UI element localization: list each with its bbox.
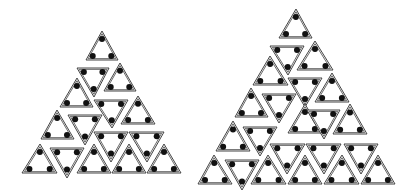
dot xyxy=(267,61,273,67)
dot xyxy=(248,93,254,99)
dot xyxy=(37,149,43,155)
dot xyxy=(365,177,371,183)
dot xyxy=(229,161,235,167)
dot xyxy=(222,177,228,183)
dot xyxy=(230,126,236,132)
dot xyxy=(329,78,335,84)
triangle-tile-down xyxy=(288,78,322,107)
dot xyxy=(331,145,337,151)
dot xyxy=(302,160,308,166)
dot xyxy=(64,132,70,138)
dot xyxy=(265,160,271,166)
dot xyxy=(302,63,308,69)
dot xyxy=(349,177,355,183)
dot xyxy=(64,167,70,173)
triangle-tile-up xyxy=(315,73,349,102)
dot xyxy=(118,133,124,139)
dot xyxy=(81,69,87,75)
triangle-tiling-diagram xyxy=(0,0,416,196)
dot xyxy=(240,144,246,150)
dot xyxy=(125,117,131,123)
dot xyxy=(220,144,226,150)
dot xyxy=(116,166,122,172)
dot xyxy=(83,100,89,106)
dot xyxy=(293,14,299,20)
dot xyxy=(257,78,263,84)
dot xyxy=(109,117,115,123)
dot xyxy=(385,177,391,183)
dot xyxy=(294,47,300,53)
dot xyxy=(255,177,261,183)
dot xyxy=(258,110,264,116)
dot xyxy=(347,109,353,115)
dot xyxy=(99,36,105,42)
dot xyxy=(54,115,60,121)
dot xyxy=(145,117,151,123)
dot xyxy=(161,149,167,155)
dot xyxy=(328,177,334,183)
dot xyxy=(154,133,160,139)
dot xyxy=(108,151,114,157)
dot xyxy=(117,68,123,74)
dot xyxy=(368,145,374,151)
triangle-tile-up xyxy=(333,104,367,134)
dot xyxy=(202,177,208,183)
dot xyxy=(312,79,318,85)
dot xyxy=(311,111,317,117)
dot xyxy=(136,166,142,172)
dot xyxy=(278,78,284,84)
dot xyxy=(99,69,105,75)
triangle-tile-up xyxy=(297,41,333,70)
triangle-tile-down xyxy=(262,94,296,123)
dot xyxy=(285,64,291,70)
triangle-tile-down xyxy=(225,160,259,190)
dot xyxy=(267,128,273,134)
dot xyxy=(292,177,298,183)
triangle-tile-up xyxy=(235,88,268,117)
dot xyxy=(72,116,78,122)
dot xyxy=(357,127,363,133)
dot xyxy=(92,116,98,122)
dot xyxy=(358,163,364,169)
dot xyxy=(47,166,53,172)
dot xyxy=(249,161,255,167)
dot xyxy=(319,95,325,101)
dot xyxy=(98,133,104,139)
dot xyxy=(339,160,345,166)
triangle-tile-up xyxy=(41,110,74,139)
triangle-tile-up xyxy=(198,155,232,184)
dot xyxy=(330,111,336,117)
dot xyxy=(26,166,32,172)
dot xyxy=(312,46,318,52)
dot xyxy=(276,112,282,118)
right-triangle-arrangement xyxy=(198,9,395,190)
dot xyxy=(286,95,292,101)
dot xyxy=(312,177,318,183)
dot xyxy=(321,163,327,169)
dot xyxy=(337,127,343,133)
dot xyxy=(284,163,290,169)
dot xyxy=(98,101,104,107)
dot xyxy=(302,96,308,102)
triangle-tile-up xyxy=(104,63,136,91)
dot xyxy=(266,95,272,101)
dot xyxy=(274,145,280,151)
dot xyxy=(151,166,157,172)
triangle-tile-down xyxy=(243,127,277,156)
dot xyxy=(310,145,316,151)
dot xyxy=(126,84,132,90)
dot xyxy=(54,149,60,155)
dot xyxy=(74,149,80,155)
dot xyxy=(302,31,308,37)
triangle-tile-down xyxy=(68,115,102,145)
dot xyxy=(295,145,301,151)
dot xyxy=(45,132,51,138)
dot xyxy=(90,53,96,59)
dot xyxy=(74,83,80,89)
dot xyxy=(292,79,298,85)
dot xyxy=(108,53,114,59)
dot xyxy=(91,86,97,92)
dot xyxy=(144,151,150,157)
dot xyxy=(101,166,107,172)
dot xyxy=(133,133,139,139)
